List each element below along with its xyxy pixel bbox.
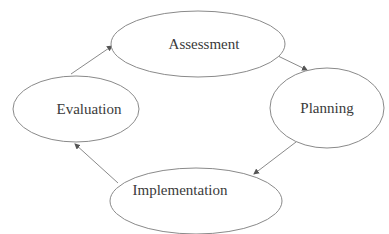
label-evaluation: Evaluation (57, 101, 122, 118)
label-implementation: Implementation (133, 182, 228, 199)
label-planning: Planning (300, 100, 353, 117)
edge-implementation-to-evaluation (75, 144, 118, 183)
node-implementation (110, 168, 282, 234)
edge-evaluation-to-assessment (71, 46, 112, 74)
edge-assessment-to-planning (278, 56, 307, 70)
label-assessment: Assessment (169, 36, 240, 53)
edge-planning-to-implementation (254, 142, 296, 174)
